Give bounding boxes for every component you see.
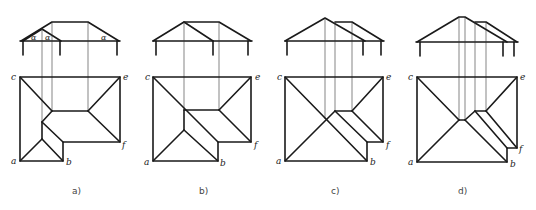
corner-label-b: b xyxy=(66,157,72,167)
panel-a: α α α c e f a b a) xyxy=(11,22,128,196)
panel-b-plan xyxy=(153,77,251,161)
panel-b: c e f a b b) xyxy=(144,22,260,196)
corner-label-a: a xyxy=(276,156,281,166)
angle-alpha-label: α xyxy=(45,33,51,42)
corner-label-e: e xyxy=(386,72,391,82)
corner-label-b: b xyxy=(220,158,226,168)
panel-d: c e f a b d) xyxy=(408,17,525,196)
panel-caption-b: b) xyxy=(199,186,208,196)
panel-b-elevation xyxy=(153,22,252,55)
panel-c-plan xyxy=(285,77,383,161)
corner-label-b: b xyxy=(510,159,516,169)
panel-a-plan xyxy=(20,77,120,161)
corner-label-c: c xyxy=(408,72,413,82)
corner-label-f: f xyxy=(253,140,259,150)
panel-c-projection-lines xyxy=(325,18,352,119)
corner-label-e: e xyxy=(520,72,525,82)
panel-d-plan xyxy=(417,77,517,162)
corner-label-c: c xyxy=(11,72,16,82)
panel-b-projection-lines xyxy=(184,22,219,110)
panel-d-elevation xyxy=(416,17,518,56)
corner-label-a: a xyxy=(144,157,149,167)
corner-label-f: f xyxy=(518,144,524,154)
panel-c: c e f a b c) xyxy=(276,18,391,196)
corner-label-f: f xyxy=(385,140,391,150)
corner-label-c: c xyxy=(145,72,150,82)
roof-projection-diagram: α α α c e f a b a) xyxy=(0,0,536,210)
angle-alpha-label: α xyxy=(31,33,37,42)
corner-label-f: f xyxy=(121,140,127,150)
panel-caption-a: a) xyxy=(72,186,81,196)
panel-d-projection-lines xyxy=(459,17,486,120)
corner-label-a: a xyxy=(408,157,413,167)
panel-a-elevation: α α α xyxy=(20,22,120,55)
panel-caption-d: d) xyxy=(458,186,467,196)
corner-label-c: c xyxy=(277,72,282,82)
panel-caption-c: c) xyxy=(331,186,339,196)
corner-label-a: a xyxy=(11,156,16,166)
corner-label-e: e xyxy=(255,72,260,82)
corner-label-b: b xyxy=(370,157,376,167)
corner-label-e: e xyxy=(123,72,128,82)
angle-alpha-label: α xyxy=(101,33,107,42)
panel-c-elevation xyxy=(285,18,384,55)
